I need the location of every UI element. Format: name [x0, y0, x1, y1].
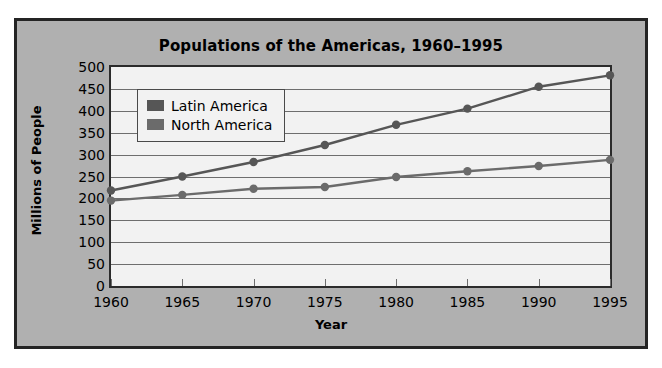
x-tick-label: 1970 — [224, 294, 284, 310]
data-point — [321, 141, 329, 149]
legend-item: Latin America — [147, 96, 272, 115]
y-tick-label: 0 — [45, 278, 105, 294]
y-tick-label: 100 — [45, 234, 105, 250]
legend-label: North America — [171, 117, 272, 133]
y-tick-label: 400 — [45, 103, 105, 119]
x-tick-label: 1960 — [81, 294, 141, 310]
y-tick-label: 450 — [45, 81, 105, 97]
y-tick-label: 350 — [45, 125, 105, 141]
data-point — [535, 162, 543, 170]
plot-area: 050100150200250300350400450500 196019651… — [109, 65, 612, 288]
data-point — [249, 158, 257, 166]
data-point — [249, 185, 257, 193]
x-tick-label: 1985 — [437, 294, 497, 310]
data-point — [392, 173, 400, 181]
data-point — [321, 183, 329, 191]
y-axis-title: Millions of People — [29, 86, 44, 256]
data-point — [178, 172, 186, 180]
data-point — [535, 83, 543, 91]
legend-swatch-icon — [147, 100, 164, 111]
legend-item: North America — [147, 115, 272, 134]
data-point — [107, 186, 115, 194]
y-tick-label: 250 — [45, 169, 105, 185]
legend-swatch-icon — [147, 119, 164, 130]
data-point — [107, 196, 115, 204]
legend-label: Latin America — [171, 98, 268, 114]
x-tick-label: 1990 — [509, 294, 569, 310]
y-tick-label: 50 — [45, 256, 105, 272]
y-tick-label: 200 — [45, 190, 105, 206]
y-tick-label: 300 — [45, 147, 105, 163]
chart-figure: Populations of the Americas, 1960–1995 M… — [14, 18, 648, 349]
x-axis-title: Year — [17, 317, 645, 332]
y-tick-label: 500 — [45, 59, 105, 75]
x-tick-label: 1965 — [152, 294, 212, 310]
data-point — [606, 156, 614, 164]
data-point — [606, 71, 614, 79]
legend: Latin AmericaNorth America — [137, 89, 285, 142]
data-point — [463, 104, 471, 112]
data-point — [392, 121, 400, 129]
data-point — [463, 167, 471, 175]
y-tick-label: 150 — [45, 212, 105, 228]
x-tick-label: 1980 — [366, 294, 426, 310]
data-point — [178, 191, 186, 199]
x-tick-mark — [610, 279, 611, 286]
x-tick-label: 1995 — [580, 294, 640, 310]
x-tick-label: 1975 — [295, 294, 355, 310]
chart-title: Populations of the Americas, 1960–1995 — [17, 37, 645, 55]
